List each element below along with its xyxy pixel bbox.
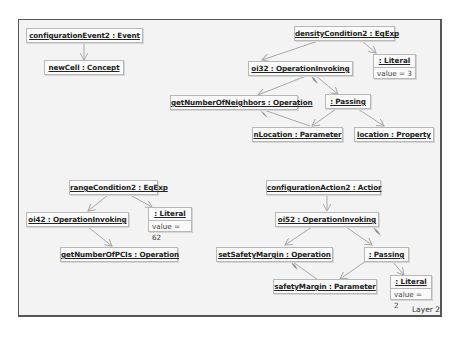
- node-oi42[interactable]: oi42 : OperationInvoking: [26, 212, 129, 227]
- node-configuration-event[interactable]: configurationEvent2 : Event: [26, 28, 143, 43]
- node-literal-2[interactable]: : Literal value = 2: [390, 275, 432, 300]
- node-passing-2[interactable]: : Passing: [364, 247, 409, 262]
- layer-label: Layer 2: [412, 305, 440, 314]
- node-configuration-action[interactable]: configurationAction2 : Actior: [266, 180, 381, 195]
- node-oi52[interactable]: oi52 : OperationInvoking: [275, 212, 379, 227]
- node-density-condition[interactable]: densityCondition2 : EqExp: [294, 26, 395, 41]
- node-get-number-of-neighbors[interactable]: getNumberOfNeighbors : Operation: [170, 95, 298, 110]
- node-get-number-of-pcis[interactable]: getNumberOfPCIs : Operation: [60, 247, 178, 262]
- node-n-location[interactable]: nLocation : Parameter: [252, 127, 343, 142]
- node-literal-62[interactable]: : Literal value = 62: [148, 207, 192, 232]
- node-location[interactable]: location : Property: [354, 127, 434, 142]
- node-safety-margin[interactable]: safetyMargin : Parameter: [273, 279, 377, 294]
- node-passing-1[interactable]: : Passing: [325, 94, 371, 109]
- node-oi32[interactable]: oi32 : OperationInvoking: [248, 61, 353, 76]
- node-range-condition[interactable]: rangeCondition2 : EqExp: [69, 180, 158, 195]
- node-literal-3[interactable]: : Literal value = 3: [373, 54, 416, 79]
- node-new-cell[interactable]: newCell : Concept: [44, 60, 124, 75]
- node-set-safety-margin[interactable]: setSafetyMargin : Operation: [216, 247, 333, 262]
